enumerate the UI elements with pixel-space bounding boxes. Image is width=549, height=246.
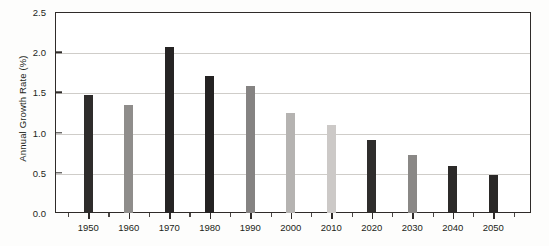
x-tick-mark bbox=[291, 213, 292, 219]
y-tick-label: 1.5 bbox=[6, 87, 46, 98]
bar bbox=[84, 95, 93, 213]
x-tick-minor bbox=[271, 213, 272, 217]
x-tick-mark bbox=[493, 213, 494, 219]
x-tick-minor bbox=[433, 213, 434, 217]
x-tick-minor bbox=[108, 213, 109, 217]
bar bbox=[286, 113, 295, 214]
x-tick-mark bbox=[412, 213, 413, 219]
bar bbox=[367, 140, 376, 213]
x-tick-minor bbox=[392, 213, 393, 217]
x-tick-minor bbox=[311, 213, 312, 217]
bar bbox=[124, 105, 133, 213]
x-tick-mark bbox=[169, 213, 170, 219]
bar bbox=[448, 166, 457, 213]
growth-rate-bar-chart: Annual Growth Rate (%) 0.00.51.01.52.02.… bbox=[0, 0, 549, 246]
x-tick-mark bbox=[88, 213, 89, 219]
y-tick-label: 0.0 bbox=[6, 208, 46, 219]
x-tick-minor bbox=[514, 213, 515, 217]
y-tick-label: 2.5 bbox=[6, 7, 46, 18]
x-tick-minor bbox=[68, 213, 69, 217]
x-tick-mark bbox=[250, 213, 251, 219]
x-tick-mark bbox=[372, 213, 373, 219]
bar bbox=[489, 175, 498, 213]
x-tick-mark bbox=[129, 213, 130, 219]
y-tick-label: 1.0 bbox=[6, 127, 46, 138]
bar-series bbox=[55, 12, 531, 213]
x-tick-minor bbox=[149, 213, 150, 217]
x-tick-minor bbox=[230, 213, 231, 217]
bar bbox=[408, 155, 417, 213]
x-tick-label: 2050 bbox=[463, 222, 523, 233]
x-tick-mark bbox=[331, 213, 332, 219]
bar bbox=[165, 47, 174, 213]
y-tick-label: 2.0 bbox=[6, 47, 46, 58]
x-tick-minor bbox=[189, 213, 190, 217]
bar bbox=[327, 125, 336, 213]
x-tick-minor bbox=[352, 213, 353, 217]
bar bbox=[246, 86, 255, 213]
y-tick-label: 0.5 bbox=[6, 167, 46, 178]
bar bbox=[205, 76, 214, 213]
x-tick-mark bbox=[210, 213, 211, 219]
x-tick-minor bbox=[473, 213, 474, 217]
x-tick-mark bbox=[453, 213, 454, 219]
